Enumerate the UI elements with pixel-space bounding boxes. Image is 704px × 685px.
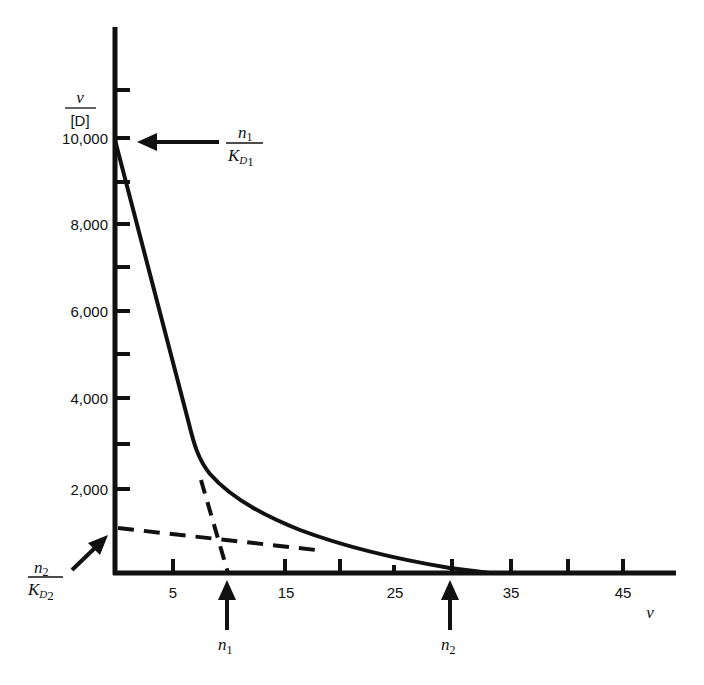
- y-tick-label: 10,000: [62, 130, 108, 147]
- y-tick-label: 8,000: [70, 216, 108, 233]
- x-tick-labels: 5 15 25 35 45: [169, 584, 632, 601]
- up-arrow-icon: [441, 580, 459, 600]
- n2-kd2-denominator: KD2: [27, 580, 54, 603]
- n1-kd1-annotation: n1 KD1: [137, 123, 263, 169]
- high-affinity-extrapolation: [201, 480, 228, 573]
- left-arrow-icon: [137, 133, 157, 151]
- observed-curve: [115, 140, 490, 573]
- y-tick-label: 6,000: [70, 303, 108, 320]
- x-tick-label: 45: [615, 584, 632, 601]
- n1-annotation: n1: [218, 580, 236, 657]
- y-tick-label: 2,000: [70, 481, 108, 498]
- n1-kd1-numerator: n1: [238, 123, 253, 144]
- y-axis-label: ν [D]: [65, 88, 96, 129]
- y-axis-label-numerator: ν: [76, 88, 84, 107]
- n2-kd2-numerator: n2: [34, 558, 49, 579]
- x-tick-label: 35: [503, 584, 520, 601]
- up-arrow-icon: [218, 580, 236, 600]
- n2-kd2-annotation: n2 KD2: [27, 535, 108, 603]
- x-tick-label: 25: [387, 584, 404, 601]
- n1-kd1-denominator: KD1: [227, 146, 254, 169]
- x-axis-label: ν: [646, 603, 654, 622]
- y-tick-label: 4,000: [70, 390, 108, 407]
- y-tick-labels: 10,000 8,000 6,000 4,000 2,000: [62, 130, 108, 498]
- scatchard-plot: 10,000 8,000 6,000 4,000 2,000 5 15 25 3…: [0, 0, 704, 685]
- x-tick-label: 15: [278, 584, 295, 601]
- n2-label: n2: [441, 635, 456, 657]
- n2-annotation: n2: [441, 580, 459, 657]
- x-tick-label: 5: [169, 584, 177, 601]
- n1-label: n1: [218, 635, 233, 657]
- y-axis-label-denominator: [D]: [70, 112, 89, 129]
